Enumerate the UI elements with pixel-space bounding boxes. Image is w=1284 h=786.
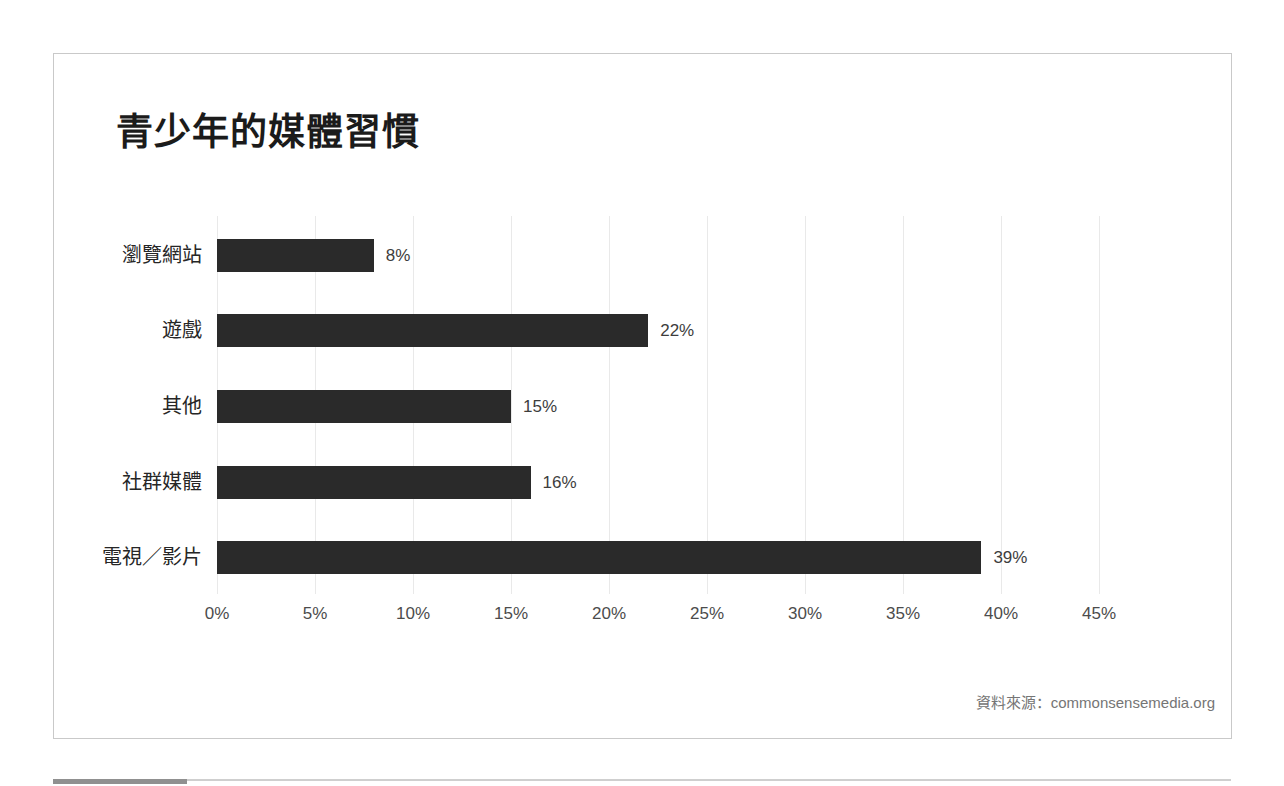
chart-row: 社群媒體16%	[54, 466, 1231, 499]
x-axis-tick-label: 45%	[1059, 604, 1139, 624]
bar-chart-plot-area: 0%5%10%15%20%25%30%35%40%45%瀏覽網站8%遊戲22%其…	[54, 54, 1231, 738]
chart-row: 其他15%	[54, 390, 1231, 423]
chart-row: 瀏覽網站8%	[54, 239, 1231, 272]
value-label: 16%	[543, 466, 577, 499]
category-label: 其他	[62, 390, 202, 423]
x-axis-tick-label: 5%	[275, 604, 355, 624]
category-label: 遊戲	[62, 314, 202, 347]
bar-其他	[217, 390, 511, 423]
bar-遊戲	[217, 314, 648, 347]
source-attribution: 資料來源：commonsensemedia.org	[976, 691, 1215, 712]
page: 青少年的媒體習慣 0%5%10%15%20%25%30%35%40%45%瀏覽網…	[0, 0, 1284, 786]
x-axis-tick-label: 25%	[667, 604, 747, 624]
value-label: 8%	[386, 239, 411, 272]
value-label: 22%	[660, 314, 694, 347]
bar-社群媒體	[217, 466, 531, 499]
x-axis-tick-label: 20%	[569, 604, 649, 624]
bar-電視／影片	[217, 541, 981, 574]
category-label: 電視／影片	[62, 541, 202, 574]
chart-card: 青少年的媒體習慣 0%5%10%15%20%25%30%35%40%45%瀏覽網…	[53, 53, 1232, 739]
next-card-dark-corner	[53, 779, 187, 784]
value-label: 39%	[993, 541, 1027, 574]
x-axis-tick-label: 15%	[471, 604, 551, 624]
value-label: 15%	[523, 390, 557, 423]
x-axis-tick-label: 0%	[177, 604, 257, 624]
next-card-top-edge	[53, 779, 1231, 786]
chart-row: 電視／影片39%	[54, 541, 1231, 574]
x-axis-tick-label: 35%	[863, 604, 943, 624]
bar-瀏覽網站	[217, 239, 374, 272]
x-axis-tick-label: 40%	[961, 604, 1041, 624]
category-label: 社群媒體	[62, 466, 202, 499]
x-axis-tick-label: 30%	[765, 604, 845, 624]
chart-row: 遊戲22%	[54, 314, 1231, 347]
category-label: 瀏覽網站	[62, 239, 202, 272]
x-axis-tick-label: 10%	[373, 604, 453, 624]
